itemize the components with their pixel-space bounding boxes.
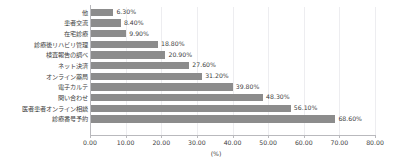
value-label: 18.80% xyxy=(161,40,185,47)
tick-mark xyxy=(304,135,305,138)
category-label: 医者患者オンライン相談 xyxy=(0,105,88,112)
bar-row: ネット決済27.60% xyxy=(0,60,394,71)
bar-row: 問い合わせ48.30% xyxy=(0,92,394,103)
category-label: オンライン薬局 xyxy=(0,73,88,80)
bar-row: 電子カルテ39.80% xyxy=(0,82,394,93)
value-label: 31.20% xyxy=(205,72,229,79)
x-axis-tick-label: 30.00 xyxy=(188,139,206,147)
tick-mark xyxy=(339,135,340,138)
x-axis-tick-label: 50.00 xyxy=(259,139,277,147)
bar xyxy=(91,105,291,112)
category-label: 電子カルテ xyxy=(0,83,88,90)
value-label: 48.30% xyxy=(266,93,290,100)
bar xyxy=(91,41,158,48)
bar-fill xyxy=(91,115,335,122)
value-label: 56.10% xyxy=(294,104,318,111)
bar-row: 診療番号予約68.60% xyxy=(0,114,394,125)
tick-mark xyxy=(268,135,269,138)
tick-mark xyxy=(197,135,198,138)
bar-fill xyxy=(91,73,202,80)
bar xyxy=(91,62,189,69)
bar-fill xyxy=(91,30,126,37)
x-axis-tick-label: 70.00 xyxy=(331,139,349,147)
bar-rows: 他6.30%患者交流8.40%在宅診療9.90%診療後リハビリ管理18.80%検… xyxy=(0,7,394,135)
bar-fill xyxy=(91,83,233,90)
tick-mark xyxy=(126,135,127,138)
bar-row: オンライン薬局31.20% xyxy=(0,71,394,82)
bar-fill xyxy=(91,19,121,26)
bar-row: 検査報告の調べ20.90% xyxy=(0,50,394,61)
value-label: 39.80% xyxy=(236,83,260,90)
value-label: 68.60% xyxy=(338,115,362,122)
x-axis-tick-label: 20.00 xyxy=(152,139,170,147)
x-axis-tick-label: 10.00 xyxy=(117,139,135,147)
value-label: 6.30% xyxy=(116,8,136,15)
category-label: 患者交流 xyxy=(0,19,88,26)
bar-fill xyxy=(91,51,165,58)
value-label: 8.40% xyxy=(124,19,144,26)
category-label: 在宅診療 xyxy=(0,30,88,37)
value-label: 20.90% xyxy=(168,51,192,58)
bar-row: 在宅診療9.90% xyxy=(0,28,394,39)
value-label: 27.60% xyxy=(192,61,216,68)
x-axis-tick-label: 80.00 xyxy=(366,139,384,147)
x-axis-tick-label: 40.00 xyxy=(224,139,242,147)
bar xyxy=(91,19,121,26)
category-label: 診療番号予約 xyxy=(0,115,88,122)
horizontal-bar-chart: 他6.30%患者交流8.40%在宅診療9.90%診療後リハビリ管理18.80%検… xyxy=(0,0,394,166)
bar xyxy=(91,30,126,37)
bar-row: 患者交流8.40% xyxy=(0,18,394,29)
bar-fill xyxy=(91,105,291,112)
tick-mark xyxy=(375,135,376,138)
bar-row: 他6.30% xyxy=(0,7,394,18)
category-label: 検査報告の調べ xyxy=(0,51,88,58)
bar-fill xyxy=(91,9,113,16)
category-label: ネット決済 xyxy=(0,62,88,69)
bar-row: 診療後リハビリ管理18.80% xyxy=(0,39,394,50)
bar-fill xyxy=(91,62,189,69)
category-label: 診療後リハビリ管理 xyxy=(0,41,88,48)
x-axis-tick-labels: 0.0010.0020.0030.0040.0050.0060.0070.008… xyxy=(0,139,394,149)
tick-mark xyxy=(233,135,234,138)
bar-fill xyxy=(91,41,158,48)
tick-mark xyxy=(90,135,91,138)
bar xyxy=(91,73,202,80)
value-label: 9.90% xyxy=(129,30,149,37)
bar xyxy=(91,115,335,122)
bar-row: 医者患者オンライン相談56.10% xyxy=(0,103,394,114)
x-axis-unit-label: (%) xyxy=(211,150,222,158)
bar xyxy=(91,83,233,90)
bar xyxy=(91,94,263,101)
x-axis-tick-label: 0.00 xyxy=(83,139,97,147)
x-axis-tick-label: 60.00 xyxy=(295,139,313,147)
bar xyxy=(91,9,113,16)
bar xyxy=(91,51,165,58)
category-label: 問い合わせ xyxy=(0,94,88,101)
category-label: 他 xyxy=(0,9,88,16)
bar-fill xyxy=(91,94,263,101)
tick-mark xyxy=(161,135,162,138)
